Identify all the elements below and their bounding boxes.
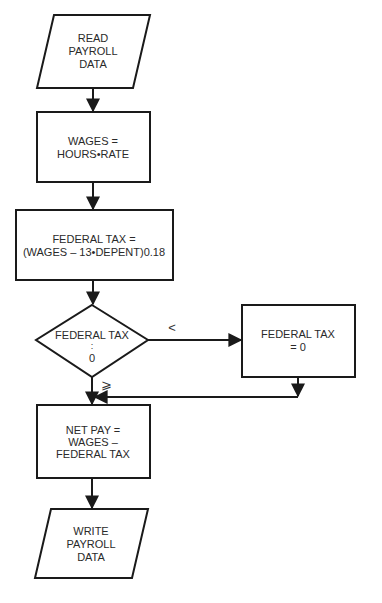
node-decision-line-3: 0 xyxy=(89,352,95,364)
node-wages-line-1: WAGES = xyxy=(68,135,118,147)
edge-label-greater-equal: ⩾ xyxy=(101,377,112,392)
node-read-payroll-data: READ PAYROLL DATA xyxy=(37,15,150,88)
node-netpay-line-3: FEDERAL TAX xyxy=(56,448,130,460)
node-federal-tax-zero: FEDERAL TAX = 0 xyxy=(242,305,355,377)
node-net-pay: NET PAY = WAGES – FEDERAL TAX xyxy=(37,405,150,478)
node-write-line-1: WRITE xyxy=(73,525,108,537)
node-write-payroll-data: WRITE PAYROLL DATA xyxy=(35,509,148,578)
edge-label-less-than: < xyxy=(168,320,176,335)
node-netpay-line-2: WAGES – xyxy=(68,436,119,448)
node-wages-line-2: HOURS•RATE xyxy=(57,148,129,160)
node-decision-federal-tax: FEDERAL TAX : 0 xyxy=(36,305,148,377)
node-decision-line-2: : xyxy=(91,341,94,351)
node-zero-line-1: FEDERAL TAX xyxy=(261,328,335,340)
payroll-flowchart: READ PAYROLL DATA WAGES = HOURS•RATE FED… xyxy=(0,0,382,603)
node-fedtax-line-2: (WAGES – 13•DEPENT)0.18 xyxy=(23,246,165,258)
node-decision-line-1: FEDERAL TAX xyxy=(55,329,129,341)
node-read-line-3: DATA xyxy=(79,58,107,70)
node-fedtax-line-1: FEDERAL TAX = xyxy=(52,233,135,245)
node-federal-tax-calc: FEDERAL TAX = (WAGES – 13•DEPENT)0.18 xyxy=(16,210,173,280)
node-write-line-3: DATA xyxy=(77,551,105,563)
node-zero-line-2: = 0 xyxy=(290,341,306,353)
node-read-line-1: READ xyxy=(78,32,109,44)
node-netpay-line-1: NET PAY = xyxy=(66,424,121,436)
node-wages: WAGES = HOURS•RATE xyxy=(37,112,150,182)
node-write-line-2: PAYROLL xyxy=(66,538,115,550)
node-read-line-2: PAYROLL xyxy=(68,45,117,57)
